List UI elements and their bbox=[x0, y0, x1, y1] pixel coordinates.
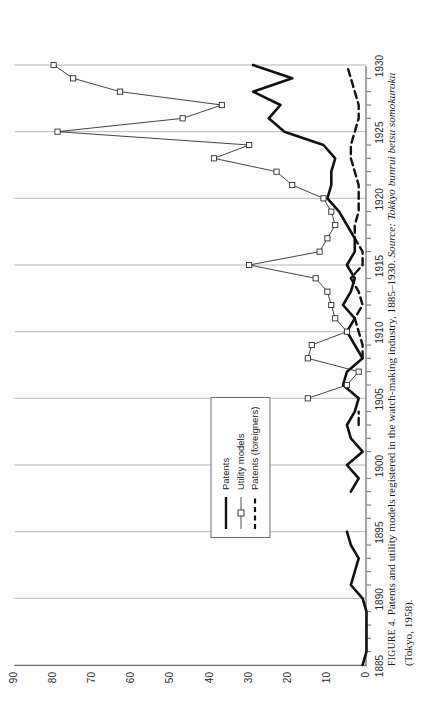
y-axis-tick-label: 70 bbox=[85, 672, 96, 706]
legend-item-utility-models: Utility models bbox=[233, 407, 248, 530]
chart-legend: Patents Utility models Patents bbox=[210, 397, 270, 538]
figure-caption: FIGURE 4. Patents and utility models reg… bbox=[382, 66, 416, 666]
figure-label: FIGURE 4. bbox=[385, 618, 396, 666]
legend-swatch-square-marker-line-icon bbox=[235, 496, 246, 530]
figure-source-place-year: (Tokyo, 1958). bbox=[401, 599, 413, 666]
legend-item-patents: Patents bbox=[218, 407, 233, 530]
legend-label-utility-models: Utility models bbox=[233, 434, 248, 491]
figure-caption-main: Patents and utility models registered in… bbox=[384, 260, 396, 615]
legend-swatch-thick-line-icon bbox=[220, 496, 231, 530]
rotated-figure-wrapper: 9080706050403020100 18851890189519001905… bbox=[0, 0, 445, 716]
y-axis-tick-label: 60 bbox=[124, 672, 135, 706]
y-axis-tick-label: 90 bbox=[7, 672, 18, 706]
figure-source-title: Tokkyo bunrui betsu somokuroku bbox=[384, 73, 396, 220]
y-axis-tick-label: 20 bbox=[281, 672, 292, 706]
chart-plot-area bbox=[14, 66, 366, 666]
chart-svg bbox=[14, 65, 366, 665]
y-axis-tick-label: 80 bbox=[46, 672, 57, 706]
y-axis-tick-label: 50 bbox=[163, 672, 174, 706]
figure-source-label: Source: bbox=[384, 223, 396, 257]
legend-swatch-dashed-line-icon bbox=[249, 496, 260, 530]
figure-canvas: 9080706050403020100 18851890189519001905… bbox=[0, 0, 445, 716]
y-axis-tick-label: 30 bbox=[242, 672, 253, 706]
legend-label-patents: Patents bbox=[218, 458, 233, 490]
legend-label-patents-foreigners: Patents (foreigners) bbox=[247, 407, 262, 490]
y-axis-tick-label: 40 bbox=[203, 672, 214, 706]
y-axis-tick-label: 10 bbox=[320, 672, 331, 706]
legend-item-patents-foreigners: Patents (foreigners) bbox=[247, 407, 262, 530]
figure-page: 9080706050403020100 18851890189519001905… bbox=[0, 0, 445, 716]
y-axis-tick-label: 0 bbox=[359, 672, 370, 706]
